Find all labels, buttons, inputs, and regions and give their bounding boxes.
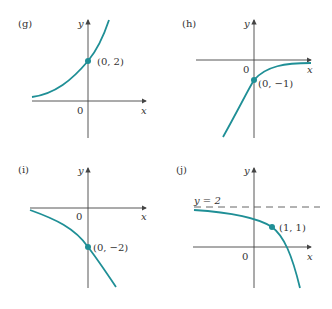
origin-label: 0 xyxy=(243,64,249,75)
graphs-figure: (g) y x 0 (0, 2) (h) y x 0 (0, −1) (i) y… xyxy=(0,0,332,309)
point-marker xyxy=(251,77,257,83)
x-axis-label: x xyxy=(307,64,313,75)
curve-h xyxy=(223,63,311,137)
x-axis-label: x xyxy=(141,211,147,222)
x-axis-label: x xyxy=(141,105,147,116)
point-marker xyxy=(85,244,91,250)
panel-label-i: (i) xyxy=(18,164,29,175)
x-axis-label: x xyxy=(307,251,313,262)
y-axis-label: y xyxy=(77,165,84,176)
origin-label: 0 xyxy=(76,211,82,222)
panel-j: (j) y x 0 y = 2 (1, 1) xyxy=(176,164,320,288)
point-label: (0, −1) xyxy=(258,78,293,89)
y-axis-label: y xyxy=(77,18,84,29)
point-label: (0, 2) xyxy=(97,56,124,67)
point-label: (0, −2) xyxy=(93,242,128,253)
panel-h: (h) y x 0 (0, −1) xyxy=(182,18,313,138)
point-marker xyxy=(85,58,91,64)
panel-label-j: (j) xyxy=(176,164,187,175)
point-label: (1, 1) xyxy=(279,222,306,233)
y-axis-label: y xyxy=(243,18,250,29)
panel-i: (i) y x 0 (0, −2) xyxy=(18,164,147,288)
asymptote-label: y = 2 xyxy=(193,195,221,206)
panel-g: (g) y x 0 (0, 2) xyxy=(18,18,147,138)
panel-label-g: (g) xyxy=(18,18,32,29)
y-axis-label: y xyxy=(243,165,250,176)
origin-label: 0 xyxy=(242,251,248,262)
panel-label-h: (h) xyxy=(182,18,196,29)
origin-label: 0 xyxy=(77,105,83,116)
point-marker xyxy=(269,224,275,230)
